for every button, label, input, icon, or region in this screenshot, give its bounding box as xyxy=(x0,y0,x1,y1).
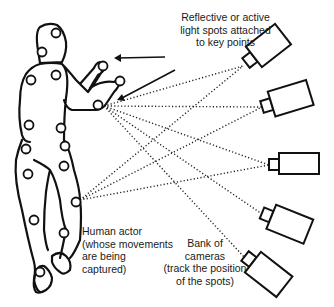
marker-finger-2 xyxy=(116,77,125,86)
marker-left-knee xyxy=(30,216,39,225)
cameras-label-line-4: of the spots) xyxy=(150,275,260,288)
cameras-label-line-1: Bank of xyxy=(150,237,260,250)
sight-lines-leg xyxy=(80,66,269,200)
marker-finger-1 xyxy=(99,62,108,71)
markers-label-line-3: to key points xyxy=(168,36,283,49)
marker-right-shoulder xyxy=(52,71,61,80)
markers-label-line-2: light spots attached xyxy=(168,24,283,37)
motion-capture-diagram: Reflective or active light spots attache… xyxy=(0,0,334,307)
cameras-label-line-2: cameras xyxy=(150,250,260,263)
cameras-label-line-3: (track the position xyxy=(150,262,260,275)
marker-left-shoulder xyxy=(27,76,36,85)
camera-4 xyxy=(257,201,313,244)
actor-torso xyxy=(19,62,120,142)
marker-head-top xyxy=(52,29,61,38)
actor-label-line-1: Human actor xyxy=(82,225,173,238)
marker-right-thigh xyxy=(60,162,69,171)
marker-left-ankle xyxy=(36,268,45,277)
camera-2 xyxy=(258,80,313,119)
marker-left-thigh xyxy=(24,170,33,179)
arrow-head-fingers xyxy=(114,54,121,62)
camera-3 xyxy=(269,153,319,174)
markers-label: Reflective or active light spots attache… xyxy=(168,11,283,49)
marker-wrist xyxy=(94,101,103,110)
marker-right-shin xyxy=(60,229,69,238)
marker-right-hip xyxy=(61,142,70,151)
marker-left-hip xyxy=(22,145,31,154)
cameras-label: Bank of cameras (track the position of t… xyxy=(150,237,260,287)
marker-right-waist xyxy=(57,124,66,133)
marker-right-knee xyxy=(72,198,81,207)
marker-head-side xyxy=(38,48,47,57)
markers-label-line-1: Reflective or active xyxy=(168,11,283,24)
marker-left-waist xyxy=(25,121,34,130)
